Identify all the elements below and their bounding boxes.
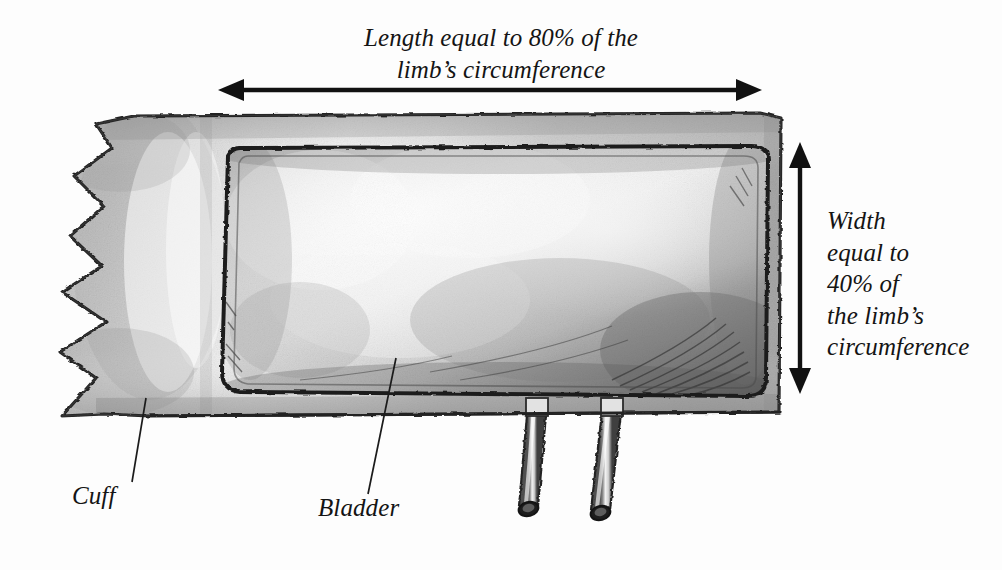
width-label-line4: the limb’s <box>827 300 997 332</box>
cuff-part-label: Cuff <box>72 482 115 510</box>
arrowhead-up <box>789 142 811 168</box>
tube-right <box>589 404 622 522</box>
arrowhead-left <box>218 79 244 101</box>
length-label-line2: limb’s circumference <box>301 54 701 86</box>
bladder <box>208 135 800 414</box>
length-label-line1: Length equal to 80% of the <box>301 22 701 54</box>
length-dimension-label: Length equal to 80% of the limb’s circum… <box>301 22 701 86</box>
diagram-canvas: Length equal to 80% of the limb’s circum… <box>0 0 1002 570</box>
arrowhead-down <box>789 368 811 394</box>
width-dimension-label: Width equal to 40% of the limb’s circumf… <box>827 205 997 363</box>
width-label-line2: equal to <box>827 237 997 269</box>
width-label-line5: circumference <box>827 331 997 363</box>
width-label-line1: Width <box>827 205 997 237</box>
tube-left <box>517 404 547 518</box>
arrowhead-right <box>736 79 762 101</box>
bladder-shading <box>208 135 800 414</box>
width-label-line3: 40% of <box>827 268 997 300</box>
cuff-tubes <box>517 398 623 522</box>
width-dimension-arrow <box>789 142 811 394</box>
bladder-part-label: Bladder <box>318 494 399 522</box>
